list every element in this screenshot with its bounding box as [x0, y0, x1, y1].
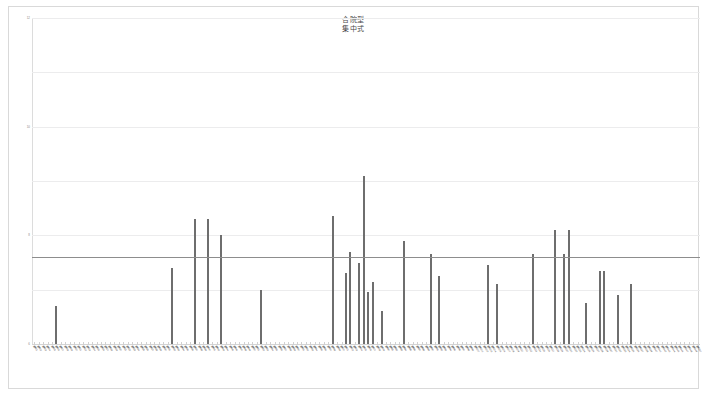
bar[interactable] — [55, 306, 57, 344]
bar[interactable] — [617, 295, 619, 344]
bar[interactable] — [430, 254, 432, 344]
y-axis-tick-label: 10 — [27, 125, 30, 128]
bar[interactable] — [358, 263, 360, 345]
bar[interactable] — [194, 219, 196, 344]
bar[interactable] — [496, 284, 498, 344]
bar[interactable] — [554, 230, 556, 344]
chart-frame: 合院型 集中式 12108643.220 案例01案例02案例03案例04案例0… — [8, 6, 699, 389]
bar[interactable] — [372, 282, 374, 344]
bar[interactable] — [349, 252, 351, 344]
bar[interactable] — [207, 219, 209, 344]
y-axis-tick-label: 8 — [28, 234, 30, 237]
x-axis-labels-group: 案例01案例02案例03案例04案例05案例06案例07案例08案例09案例10… — [32, 345, 700, 383]
bar[interactable] — [599, 271, 601, 344]
bar[interactable] — [171, 268, 173, 344]
bar[interactable] — [220, 235, 222, 344]
bar[interactable] — [630, 284, 632, 344]
y-axis-tick-label: 6 — [28, 343, 30, 346]
bar[interactable] — [568, 230, 570, 344]
bar[interactable] — [603, 271, 605, 344]
bar[interactable] — [438, 276, 440, 344]
y-axis-tick-label: 12 — [27, 17, 30, 20]
bar[interactable] — [332, 216, 334, 344]
bar[interactable] — [487, 265, 489, 344]
bar[interactable] — [563, 254, 565, 344]
bar[interactable] — [532, 254, 534, 344]
bar[interactable] — [367, 292, 369, 344]
bar[interactable] — [345, 273, 347, 344]
bar[interactable] — [260, 290, 262, 344]
bar[interactable] — [363, 176, 365, 344]
reference-line: 3.2 — [32, 257, 700, 258]
bars-group — [32, 18, 700, 344]
bar[interactable] — [585, 303, 587, 344]
plot-area: 12108643.220 — [32, 18, 700, 344]
bar[interactable] — [381, 311, 383, 344]
